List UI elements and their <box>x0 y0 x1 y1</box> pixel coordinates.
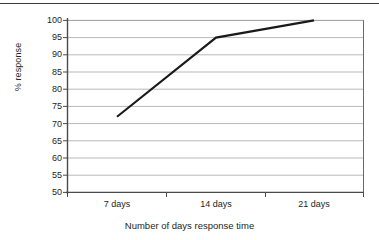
x-tick-label-14-days: 14 days <box>186 200 246 209</box>
chart-figure: % response 100 95 90 85 80 75 70 65 60 5… <box>0 0 379 240</box>
x-tick-label-21-days: 21 days <box>284 200 344 209</box>
x-tick-label-7-days: 7 days <box>87 200 147 209</box>
y-axis-ticks <box>63 20 67 192</box>
x-axis-title: Number of days response time <box>0 220 379 231</box>
gridlines <box>67 20 364 175</box>
data-series-line <box>117 20 314 116</box>
